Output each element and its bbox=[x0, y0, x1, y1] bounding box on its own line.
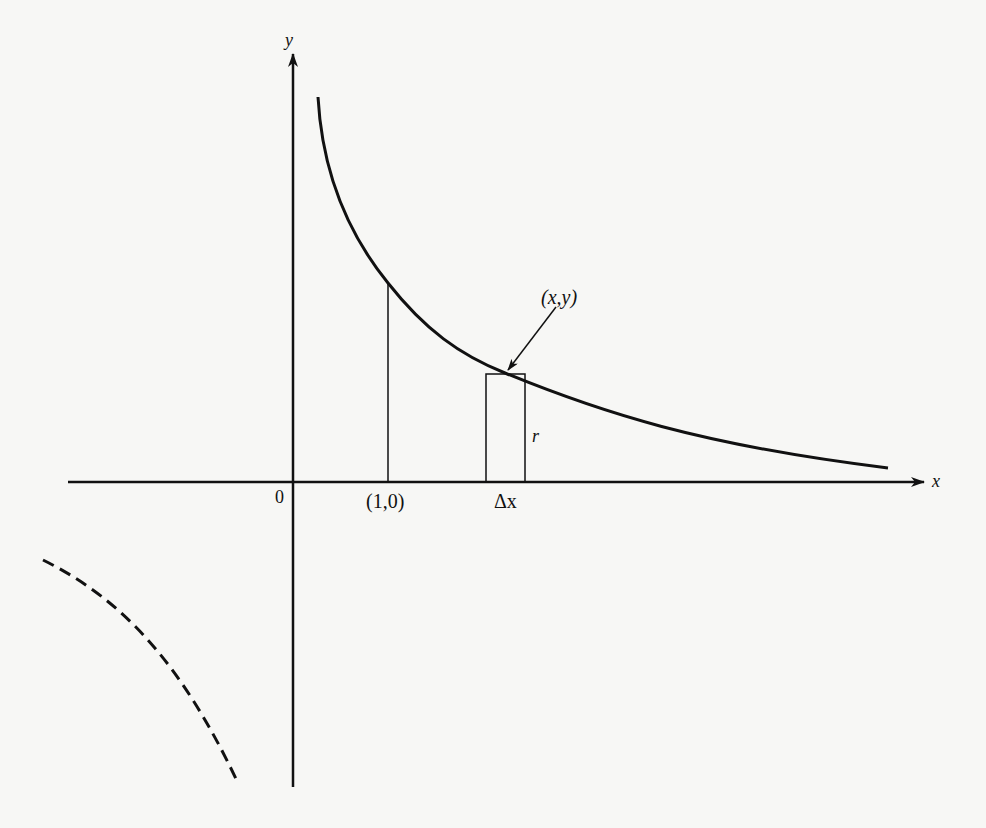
point-1-0-label: (1,0) bbox=[366, 490, 404, 513]
radius-label: r bbox=[532, 426, 540, 446]
hyperbola-diagram: x y 0 (1,0) Δx (x,y) r bbox=[0, 0, 986, 828]
point-xy-label: (x,y) bbox=[541, 286, 577, 309]
y-axis-label: y bbox=[283, 30, 293, 50]
rectangle-element bbox=[486, 374, 525, 482]
hyperbola-dashed-branch bbox=[43, 560, 238, 783]
x-axis-label: x bbox=[931, 471, 940, 491]
point-xy-arrow bbox=[508, 307, 556, 370]
hyperbola-curve bbox=[318, 97, 888, 468]
delta-x-label: Δx bbox=[494, 490, 517, 512]
origin-label: 0 bbox=[275, 487, 284, 507]
